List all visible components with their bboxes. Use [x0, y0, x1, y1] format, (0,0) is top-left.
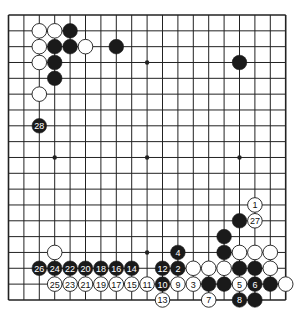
black-stone[interactable] — [47, 55, 62, 70]
white-stone[interactable] — [217, 261, 232, 276]
white-stone[interactable]: 13 — [155, 293, 170, 308]
white-stone[interactable]: 25 — [47, 277, 62, 292]
black-stone[interactable]: 4 — [171, 245, 186, 260]
white-stone[interactable]: 5 — [232, 277, 247, 292]
star-point — [145, 250, 149, 254]
white-stone[interactable] — [47, 245, 62, 260]
black-stone[interactable] — [217, 229, 232, 244]
white-stone[interactable]: 1 — [248, 198, 263, 213]
move-number-label: 27 — [250, 216, 260, 226]
move-number-label: 23 — [65, 280, 75, 290]
black-stone[interactable] — [47, 71, 62, 86]
stone-disc — [232, 213, 247, 228]
white-stone[interactable]: 17 — [109, 277, 124, 292]
stone-disc — [32, 39, 47, 54]
move-number-label: 7 — [206, 295, 211, 305]
stone-disc — [263, 245, 278, 260]
black-stone[interactable]: 20 — [78, 261, 93, 276]
stone-disc — [248, 261, 263, 276]
stone-disc — [278, 277, 293, 292]
stone-disc — [32, 55, 47, 70]
move-number-label: 5 — [237, 280, 242, 290]
white-stone[interactable]: 23 — [63, 277, 78, 292]
stone-disc — [47, 71, 62, 86]
white-stone[interactable] — [32, 24, 47, 39]
stone-disc — [201, 261, 216, 276]
white-stone[interactable] — [232, 245, 247, 260]
black-stone[interactable]: 14 — [124, 261, 139, 276]
go-board[interactable]: 1234567891011121314151617181920212223242… — [0, 0, 296, 314]
stone-disc — [32, 87, 47, 102]
black-stone[interactable]: 16 — [109, 261, 124, 276]
black-stone[interactable] — [232, 55, 247, 70]
black-stone[interactable] — [232, 261, 247, 276]
stone-disc — [47, 245, 62, 260]
white-stone[interactable] — [32, 55, 47, 70]
white-stone[interactable] — [186, 261, 201, 276]
white-stone[interactable] — [263, 245, 278, 260]
stone-disc — [232, 245, 247, 260]
star-point — [145, 60, 149, 64]
stone-disc — [263, 277, 278, 292]
move-number-label: 15 — [127, 280, 137, 290]
white-stone[interactable]: 7 — [201, 293, 216, 308]
black-stone[interactable]: 12 — [155, 261, 170, 276]
white-stone[interactable] — [78, 39, 93, 54]
black-stone[interactable] — [109, 39, 124, 54]
move-number-label: 11 — [142, 280, 151, 290]
stone-disc — [47, 55, 62, 70]
move-number-label: 22 — [65, 264, 75, 274]
stone-disc — [47, 39, 62, 54]
black-stone[interactable]: 24 — [47, 261, 62, 276]
stone-disc — [248, 245, 263, 260]
black-stone[interactable]: 28 — [32, 119, 47, 134]
black-stone[interactable]: 10 — [155, 277, 170, 292]
black-stone[interactable] — [63, 39, 78, 54]
stone-disc — [232, 55, 247, 70]
move-number-label: 14 — [127, 264, 137, 274]
black-stone[interactable] — [248, 293, 263, 308]
move-number-label: 4 — [175, 248, 180, 258]
white-stone[interactable]: 15 — [124, 277, 139, 292]
white-stone[interactable]: 21 — [78, 277, 93, 292]
black-stone[interactable]: 2 — [171, 261, 186, 276]
move-number-label: 1 — [252, 200, 257, 210]
white-stone[interactable] — [263, 261, 278, 276]
white-stone[interactable] — [248, 245, 263, 260]
black-stone[interactable] — [248, 261, 263, 276]
black-stone[interactable] — [217, 277, 232, 292]
black-stone[interactable] — [63, 24, 78, 39]
white-stone[interactable]: 9 — [171, 277, 186, 292]
white-stone[interactable] — [32, 39, 47, 54]
stone-disc — [32, 24, 47, 39]
white-stone[interactable]: 27 — [248, 213, 263, 228]
white-stone[interactable]: 3 — [186, 277, 201, 292]
move-number-label: 10 — [157, 280, 167, 290]
black-stone[interactable] — [232, 213, 247, 228]
black-stone[interactable] — [217, 245, 232, 260]
stone-disc — [248, 293, 263, 308]
white-stone[interactable]: 19 — [94, 277, 109, 292]
black-stone[interactable] — [47, 39, 62, 54]
move-number-label: 16 — [111, 264, 121, 274]
move-number-label: 6 — [252, 280, 257, 290]
move-number-label: 25 — [50, 280, 60, 290]
white-stone[interactable] — [32, 87, 47, 102]
black-stone[interactable]: 18 — [94, 261, 109, 276]
black-stone[interactable]: 6 — [248, 277, 263, 292]
black-stone[interactable]: 22 — [63, 261, 78, 276]
black-stone[interactable]: 8 — [232, 293, 247, 308]
move-number-label: 3 — [191, 280, 196, 290]
black-stone[interactable] — [201, 277, 216, 292]
move-number-label: 12 — [157, 264, 167, 274]
black-stone[interactable] — [263, 277, 278, 292]
move-number-label: 28 — [34, 121, 44, 131]
white-stone[interactable] — [278, 277, 293, 292]
move-number-label: 26 — [34, 264, 44, 274]
move-number-label: 21 — [80, 280, 90, 290]
white-stone[interactable]: 11 — [140, 277, 155, 292]
white-stone[interactable] — [201, 261, 216, 276]
star-point — [145, 155, 149, 159]
white-stone[interactable] — [47, 24, 62, 39]
black-stone[interactable]: 26 — [32, 261, 47, 276]
